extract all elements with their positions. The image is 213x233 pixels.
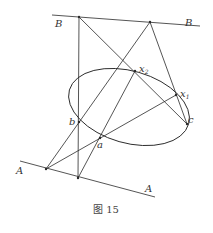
label-c: c — [188, 114, 194, 125]
label-B-left: B — [54, 18, 62, 29]
point-B-right — [149, 21, 151, 23]
label-a: a — [97, 139, 103, 150]
figure-caption: 图 15 — [93, 204, 119, 215]
label-x2: x2 — [139, 63, 149, 75]
line-Aleft-a-x1 — [46, 95, 176, 169]
point-x2 — [134, 70, 136, 72]
label-x1: x1 — [180, 88, 189, 100]
point-A-mid — [77, 177, 79, 179]
line-A — [20, 161, 155, 197]
label-B-right: B — [184, 17, 192, 28]
point-b — [78, 121, 80, 123]
ellipse — [59, 55, 198, 158]
line-B — [52, 15, 200, 26]
line-Bright-c — [150, 22, 187, 124]
line-Bleft-b-A — [78, 17, 79, 178]
geometry-diagram: B B A A b a c x2 x1 图 15 — [0, 0, 213, 233]
line-A-a-x2 — [78, 71, 135, 178]
point-A-left — [45, 168, 47, 170]
label-b: b — [69, 116, 75, 127]
point-B-left — [78, 16, 80, 18]
label-A-right: A — [144, 183, 152, 194]
label-A-left: A — [15, 165, 23, 176]
point-x1 — [175, 94, 177, 96]
